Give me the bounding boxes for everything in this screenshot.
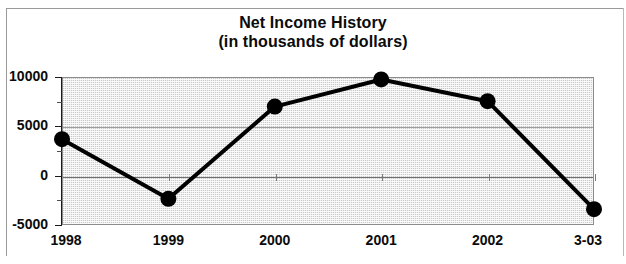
chart-subtitle: (in thousands of dollars) [0, 33, 626, 52]
x-axis-tick-label-3-03: 3-03 [574, 232, 602, 248]
y-axis-tick-label-5000: 5000 [0, 117, 57, 133]
plot-area [62, 77, 594, 225]
zero-gridline [63, 177, 593, 178]
chart-title-block: Net Income History (in thousands of doll… [0, 14, 626, 52]
y-axis-tick-label--5000: -5000 [0, 216, 57, 232]
x-axis-tick-label-1998: 1998 [50, 232, 81, 248]
x-axis-tick-2002 [489, 174, 490, 181]
x-axis-tick-label-1999: 1999 [153, 232, 184, 248]
x-axis-tick-3-03 [595, 174, 596, 181]
gridline-5000 [63, 127, 593, 128]
y-axis-tick-label-10000: 10000 [0, 68, 57, 84]
x-axis-tick-label-2000: 2000 [259, 232, 290, 248]
x-axis-tick-1999 [169, 174, 170, 181]
chart-figure: Net Income History (in thousands of doll… [0, 0, 626, 264]
frame-border-top [6, 8, 624, 9]
y-axis-tick-label-0: 0 [0, 167, 57, 183]
x-axis-tick-label-2002: 2002 [472, 232, 503, 248]
y-axis-minor-tick--2500 [57, 200, 62, 201]
x-axis-tick-2001 [382, 174, 383, 181]
y-axis-minor-tick-7500 [57, 102, 62, 103]
y-axis-tick-labels: 1000050000-5000 [0, 0, 57, 264]
x-axis-tick-2000 [276, 174, 277, 181]
x-axis-tick-label-2001: 2001 [366, 232, 397, 248]
y-axis-minor-tick-2500 [57, 151, 62, 152]
chart-title: Net Income History [0, 14, 626, 33]
x-axis-tick-labels: 199819992000200120023-03 [0, 232, 626, 256]
